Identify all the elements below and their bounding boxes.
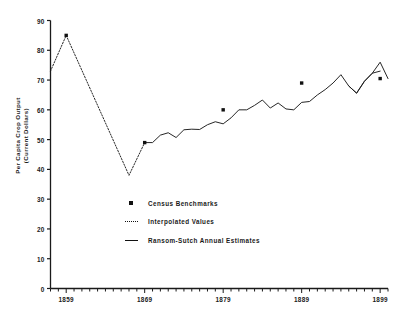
legend-marker-glyph <box>125 221 138 222</box>
benchmark-marker-1899 <box>378 77 381 80</box>
benchmark-marker-1869 <box>143 141 146 144</box>
legend-item-0: Census Benchmarks <box>118 197 218 209</box>
legend-item-2: Ransom-Sutch Annual Estimates <box>118 234 260 246</box>
chart-figure: Per Capita Crop Output (Current Dollars)… <box>0 0 401 317</box>
chart-axes <box>47 21 388 294</box>
chart-series <box>51 35 389 175</box>
legend-dotted-line-icon <box>118 221 144 222</box>
legend-solid-line-icon <box>118 240 144 241</box>
series-line-0 <box>51 35 145 175</box>
legend-label: Ransom-Sutch Annual Estimates <box>148 237 260 244</box>
chart-benchmark-markers <box>64 34 381 145</box>
benchmark-marker-1859 <box>64 34 67 37</box>
series-line-1 <box>145 71 380 142</box>
series-line-2 <box>349 62 388 93</box>
benchmark-marker-1889 <box>300 81 303 84</box>
legend-label: Census Benchmarks <box>148 200 218 207</box>
legend-square-icon <box>118 201 144 204</box>
legend-marker-glyph <box>125 240 138 241</box>
legend-item-1: Interpolated Values <box>118 216 214 228</box>
legend-label: Interpolated Values <box>148 218 214 225</box>
chart-plot-area <box>0 0 401 317</box>
legend-marker-glyph <box>129 201 132 204</box>
benchmark-marker-1879 <box>221 108 224 111</box>
